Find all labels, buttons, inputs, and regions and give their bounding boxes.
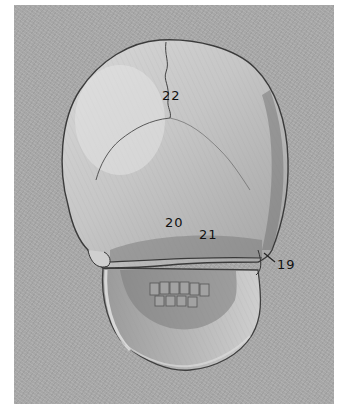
mandible [102,268,260,370]
label-21: 21 [199,228,218,241]
skull-drawing [0,0,349,416]
label-20: 20 [165,216,184,229]
label-22: 22 [162,89,181,102]
cranium [62,40,288,275]
label-19: 19 [277,258,296,271]
